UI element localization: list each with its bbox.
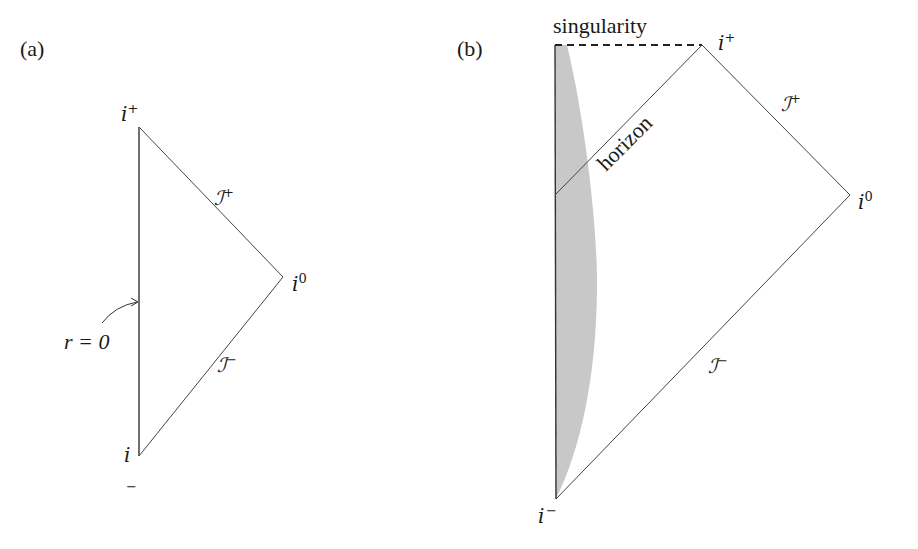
i-minus-label: i bbox=[124, 443, 130, 467]
collapsing-matter-region bbox=[555, 45, 597, 499]
panel-a: (a) i+ ℐ+ i0 ℐ− i − r = 0 bbox=[20, 36, 307, 494]
i-minus-label-b: i bbox=[538, 504, 544, 528]
penrose-diagrams: (a) i+ ℐ+ i0 ℐ− i − r = 0 (b) bbox=[0, 0, 918, 549]
scri-plus-boundary-b bbox=[702, 45, 850, 195]
panel-a-label: (a) bbox=[20, 36, 44, 61]
i-plus-label: i+ bbox=[121, 101, 138, 126]
panel-b: (b) singularity horizon i+ ℐ+ i0 ℐ− i − bbox=[457, 13, 873, 528]
scri-plus-label-b: ℐ+ bbox=[781, 91, 801, 116]
singularity-label: singularity bbox=[553, 13, 647, 38]
scri-minus-label: ℐ− bbox=[217, 352, 237, 377]
i-minus-sup: − bbox=[126, 479, 137, 494]
horizon-label: horizon bbox=[592, 110, 657, 175]
scri-minus-boundary bbox=[139, 277, 283, 456]
i-plus-label-b: i+ bbox=[718, 30, 735, 55]
i-zero-label: i0 bbox=[292, 271, 307, 296]
scri-minus-boundary-b bbox=[556, 195, 850, 499]
scri-plus-label: ℐ+ bbox=[214, 185, 234, 210]
r-zero-label: r = 0 bbox=[64, 329, 109, 354]
i-zero-label-b: i0 bbox=[858, 189, 873, 214]
r-zero-axis-b bbox=[555, 45, 556, 499]
scri-plus-boundary bbox=[139, 127, 283, 277]
scri-minus-label-b: ℐ− bbox=[708, 353, 728, 378]
panel-b-label: (b) bbox=[457, 36, 483, 61]
i-minus-sup-b: − bbox=[546, 503, 557, 518]
